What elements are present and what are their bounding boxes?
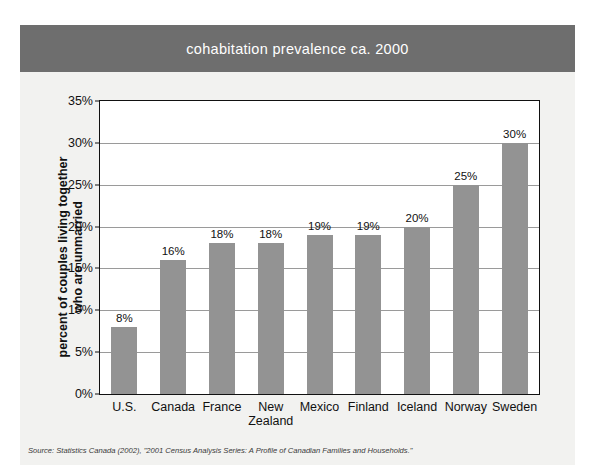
bar[interactable]: 8%U.S. xyxy=(111,327,137,394)
bar-value-label: 19% xyxy=(357,220,380,232)
y-axis-tick-label: 25% xyxy=(68,178,93,192)
bar[interactable]: 25%Norway xyxy=(453,185,479,394)
y-axis-tick-label: 35% xyxy=(68,94,93,108)
x-axis-tick-label: Canada xyxy=(151,400,195,414)
bar[interactable]: 20%Iceland xyxy=(404,227,430,394)
y-axis-tick-mark xyxy=(95,394,100,395)
y-axis-title-line-2: who are unmarried xyxy=(71,137,86,377)
plot-area: 0%5%10%15%20%25%30%35% 8%U.S.16%Canada18… xyxy=(99,100,540,395)
y-axis-tick-label: 30% xyxy=(68,136,93,150)
bar[interactable]: 18%France xyxy=(209,243,235,394)
source-note: Source: Statistics Canada (2002), "2001 … xyxy=(28,446,412,455)
x-axis-tick-label: Finland xyxy=(348,400,389,414)
y-axis-tick-label: 5% xyxy=(75,345,93,359)
y-axis-tick-mark xyxy=(95,142,100,143)
y-axis-tick-mark xyxy=(95,101,100,102)
x-axis-tick-label: Mexico xyxy=(300,400,340,414)
chart-area: percent of couples living together who a… xyxy=(20,72,575,465)
x-axis-tick-label: France xyxy=(202,400,241,414)
bar-value-label: 8% xyxy=(116,312,133,324)
bar-value-label: 19% xyxy=(308,220,331,232)
bar-value-label: 20% xyxy=(406,212,429,224)
y-axis-tick-mark xyxy=(95,310,100,311)
y-axis-tick-mark xyxy=(95,226,100,227)
bar[interactable]: 18%New Zealand xyxy=(258,243,284,394)
y-axis-tick-label: 0% xyxy=(75,387,93,401)
y-axis-title-line-1: percent of couples living together xyxy=(56,137,71,377)
bar[interactable]: 19%Mexico xyxy=(307,235,333,394)
x-axis-tick-label: U.S. xyxy=(112,400,136,414)
y-axis-tick-mark xyxy=(95,268,100,269)
bar-value-label: 18% xyxy=(259,228,282,240)
gridline xyxy=(100,143,539,144)
x-axis-tick-label: Sweden xyxy=(492,400,537,414)
chart-title: cohabitation prevalence ca. 2000 xyxy=(186,41,408,57)
y-axis-tick-label: 10% xyxy=(68,303,93,317)
x-axis-tick-label: Iceland xyxy=(397,400,437,414)
bar[interactable]: 16%Canada xyxy=(160,260,186,394)
y-axis-title: percent of couples living together who a… xyxy=(56,137,86,377)
chart-card: cohabitation prevalence ca. 2000 percent… xyxy=(20,25,575,465)
chart-title-band: cohabitation prevalence ca. 2000 xyxy=(20,25,575,72)
bar[interactable]: 19%Finland xyxy=(355,235,381,394)
x-axis-tick-label: New Zealand xyxy=(248,400,293,428)
y-axis-tick-label: 15% xyxy=(68,261,93,275)
bar[interactable]: 30%Sweden xyxy=(502,143,528,394)
bar-value-label: 25% xyxy=(454,170,477,182)
bar-value-label: 16% xyxy=(162,245,185,257)
y-axis-tick-mark xyxy=(95,184,100,185)
x-axis-tick-label: Norway xyxy=(445,400,487,414)
bar-value-label: 18% xyxy=(210,228,233,240)
bar-value-label: 30% xyxy=(503,128,526,140)
y-axis-tick-label: 20% xyxy=(68,220,93,234)
y-axis-tick-mark xyxy=(95,352,100,353)
